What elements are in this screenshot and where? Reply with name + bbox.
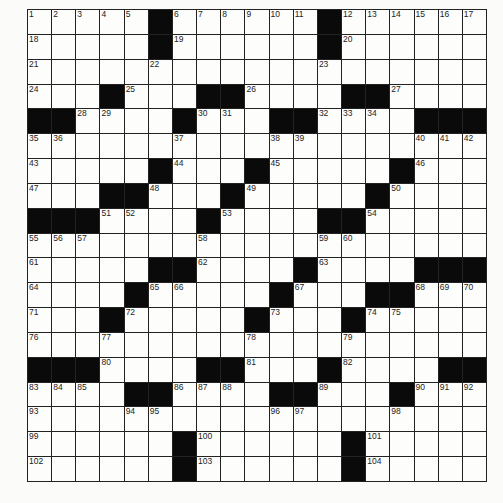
grid-cell[interactable] [125, 457, 148, 481]
grid-cell[interactable]: 71 [28, 308, 51, 332]
grid-cell[interactable] [197, 35, 220, 59]
grid-cell[interactable]: 94 [125, 407, 148, 431]
grid-cell[interactable] [173, 407, 196, 431]
grid-cell[interactable]: 19 [173, 35, 196, 59]
grid-cell[interactable] [125, 358, 148, 382]
grid-cell[interactable] [125, 109, 148, 133]
grid-cell[interactable]: 11 [294, 10, 317, 34]
grid-cell[interactable]: 102 [28, 457, 51, 481]
grid-cell[interactable]: 63 [318, 258, 341, 282]
grid-cell[interactable] [439, 333, 462, 357]
grid-cell[interactable] [294, 234, 317, 258]
grid-cell[interactable] [52, 432, 75, 456]
grid-cell[interactable] [270, 184, 293, 208]
grid-cell[interactable] [149, 209, 172, 233]
grid-cell[interactable]: 64 [28, 283, 51, 307]
grid-cell[interactable]: 98 [390, 407, 413, 431]
grid-cell[interactable]: 28 [76, 109, 99, 133]
grid-cell[interactable] [415, 209, 438, 233]
grid-cell[interactable] [125, 432, 148, 456]
grid-cell[interactable] [439, 457, 462, 481]
grid-cell[interactable] [294, 85, 317, 109]
grid-cell[interactable] [439, 407, 462, 431]
grid-cell[interactable] [76, 432, 99, 456]
grid-cell[interactable] [415, 308, 438, 332]
grid-cell[interactable]: 70 [463, 283, 486, 307]
grid-cell[interactable]: 89 [318, 383, 341, 407]
grid-cell[interactable] [294, 159, 317, 183]
grid-cell[interactable]: 55 [28, 234, 51, 258]
grid-cell[interactable] [318, 159, 341, 183]
grid-cell[interactable] [294, 35, 317, 59]
grid-cell[interactable] [270, 35, 293, 59]
grid-cell[interactable] [270, 258, 293, 282]
grid-cell[interactable] [270, 457, 293, 481]
grid-cell[interactable]: 68 [415, 283, 438, 307]
grid-cell[interactable] [318, 432, 341, 456]
grid-cell[interactable]: 32 [318, 109, 341, 133]
grid-cell[interactable] [439, 234, 462, 258]
grid-cell[interactable]: 62 [197, 258, 220, 282]
grid-cell[interactable] [390, 35, 413, 59]
grid-cell[interactable] [415, 85, 438, 109]
grid-cell[interactable] [125, 258, 148, 282]
grid-cell[interactable] [270, 333, 293, 357]
grid-cell[interactable] [100, 35, 123, 59]
grid-cell[interactable] [366, 407, 389, 431]
grid-cell[interactable]: 13 [366, 10, 389, 34]
grid-cell[interactable] [463, 234, 486, 258]
grid-cell[interactable]: 34 [366, 109, 389, 133]
grid-cell[interactable] [318, 283, 341, 307]
grid-cell[interactable] [149, 234, 172, 258]
grid-cell[interactable]: 40 [415, 134, 438, 158]
grid-cell[interactable] [100, 283, 123, 307]
grid-cell[interactable] [366, 333, 389, 357]
grid-cell[interactable] [245, 209, 268, 233]
grid-cell[interactable] [221, 234, 244, 258]
grid-cell[interactable] [221, 159, 244, 183]
grid-cell[interactable]: 74 [366, 308, 389, 332]
grid-cell[interactable] [318, 407, 341, 431]
grid-cell[interactable]: 53 [221, 209, 244, 233]
grid-cell[interactable]: 7 [197, 10, 220, 34]
grid-cell[interactable] [197, 60, 220, 84]
grid-cell[interactable] [173, 85, 196, 109]
grid-cell[interactable] [245, 109, 268, 133]
grid-cell[interactable] [342, 159, 365, 183]
grid-cell[interactable]: 56 [52, 234, 75, 258]
grid-cell[interactable]: 6 [173, 10, 196, 34]
grid-cell[interactable]: 49 [245, 184, 268, 208]
grid-cell[interactable] [366, 234, 389, 258]
grid-cell[interactable] [52, 85, 75, 109]
grid-cell[interactable]: 103 [197, 457, 220, 481]
grid-cell[interactable] [197, 407, 220, 431]
grid-cell[interactable] [318, 134, 341, 158]
grid-cell[interactable] [439, 60, 462, 84]
grid-cell[interactable] [197, 134, 220, 158]
grid-cell[interactable] [463, 333, 486, 357]
grid-cell[interactable] [415, 333, 438, 357]
grid-cell[interactable] [439, 432, 462, 456]
grid-cell[interactable]: 17 [463, 10, 486, 34]
grid-cell[interactable] [318, 308, 341, 332]
grid-cell[interactable] [415, 457, 438, 481]
grid-cell[interactable]: 78 [245, 333, 268, 357]
grid-cell[interactable] [245, 258, 268, 282]
grid-cell[interactable] [100, 432, 123, 456]
grid-cell[interactable] [439, 308, 462, 332]
grid-cell[interactable] [294, 184, 317, 208]
grid-cell[interactable] [173, 333, 196, 357]
grid-cell[interactable] [390, 258, 413, 282]
grid-cell[interactable] [52, 457, 75, 481]
grid-cell[interactable]: 39 [294, 134, 317, 158]
grid-cell[interactable] [415, 184, 438, 208]
grid-cell[interactable]: 81 [245, 358, 268, 382]
grid-cell[interactable]: 82 [342, 358, 365, 382]
grid-cell[interactable]: 92 [463, 383, 486, 407]
grid-cell[interactable] [76, 308, 99, 332]
grid-cell[interactable] [76, 35, 99, 59]
grid-cell[interactable]: 80 [100, 358, 123, 382]
grid-cell[interactable] [390, 60, 413, 84]
grid-cell[interactable] [318, 457, 341, 481]
grid-cell[interactable] [125, 234, 148, 258]
